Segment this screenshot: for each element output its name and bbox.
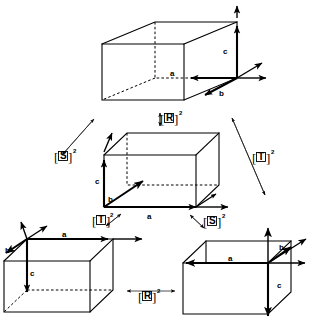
middle-unit-cell: c b a bbox=[95, 133, 228, 221]
bottom-right-cell-label-a: a bbox=[228, 254, 233, 263]
operator-S-lower-letter: S bbox=[209, 215, 216, 226]
operator-S-lower[interactable]: [ S ] 2 bbox=[190, 213, 226, 230]
bottom-right-unit-cell: a b c bbox=[183, 228, 306, 316]
top-cell-hidden-diagonal bbox=[102, 78, 155, 100]
operator-S-left-exponent: 2 bbox=[73, 148, 77, 154]
top-cell-axis-b-negative bbox=[237, 63, 262, 78]
operator-T-right-letter: T bbox=[258, 151, 264, 162]
operator-R-top-close-bracket: ] bbox=[174, 112, 178, 127]
operator-R-top-open-bracket: [ bbox=[160, 112, 164, 127]
middle-cell-label-a: a bbox=[147, 212, 152, 221]
operator-T-lower-letter: T bbox=[98, 214, 104, 225]
symmetry-diagram-svg: a b c c b a a b c bbox=[0, 0, 318, 336]
operator-T-right[interactable]: [ T ] 2 bbox=[232, 118, 275, 195]
bottom-right-cell-front-face bbox=[183, 263, 268, 314]
operator-R-bottom-letter: R bbox=[144, 290, 152, 301]
top-unit-cell: a b c bbox=[102, 6, 266, 100]
operator-R-bottom-open-bracket: [ bbox=[138, 290, 142, 305]
bottom-right-cell-axis-b-extension bbox=[268, 239, 306, 263]
operator-S-lower-close-bracket: ] bbox=[217, 215, 221, 230]
bottom-left-cell-axis-b-negative bbox=[27, 226, 47, 239]
bottom-right-cell-label-b: b bbox=[279, 243, 284, 252]
operator-R-bottom[interactable]: [ R ] 2 bbox=[127, 288, 175, 305]
operator-S-left-arrow-lower bbox=[62, 119, 94, 155]
bottom-right-cell-label-c: c bbox=[277, 281, 282, 290]
operator-R-top[interactable]: [ R ] 2 bbox=[160, 110, 183, 127]
operator-S-left-open-bracket: [ bbox=[54, 150, 58, 165]
bottom-left-cell-hidden-diagonal bbox=[4, 290, 27, 312]
bottom-right-cell-outline bbox=[183, 241, 291, 314]
operator-T-lower[interactable]: [ T ] 2 bbox=[92, 212, 121, 229]
middle-cell-hidden-edges bbox=[127, 133, 219, 185]
top-cell-label-c: c bbox=[223, 47, 228, 56]
operator-S-left-letter: S bbox=[60, 150, 67, 161]
bottom-left-cell-axis-c-negative bbox=[21, 222, 27, 239]
bottom-left-cell-outline bbox=[4, 239, 113, 312]
bottom-left-unit-cell: a b c bbox=[4, 222, 142, 312]
bottom-left-cell-label-b: b bbox=[5, 246, 10, 255]
middle-cell-axis-b-extension bbox=[196, 194, 216, 207]
middle-cell-label-b: b bbox=[108, 195, 113, 204]
top-cell-label-a: a bbox=[170, 69, 175, 78]
operator-R-top-exponent: 2 bbox=[179, 110, 183, 116]
operator-T-lower-open-bracket: [ bbox=[92, 214, 96, 229]
operator-S-lower-exponent: 2 bbox=[222, 213, 226, 219]
operator-R-bottom-close-bracket: ] bbox=[152, 290, 156, 305]
operator-T-right-open-bracket: [ bbox=[252, 151, 256, 166]
middle-cell-label-c: c bbox=[95, 177, 100, 186]
operator-T-right-close-bracket: ] bbox=[266, 151, 270, 166]
operator-T-lower-exponent: 2 bbox=[110, 212, 114, 218]
operator-T-right-exponent: 2 bbox=[271, 149, 275, 155]
figure-root: a b c c b a a b c bbox=[0, 0, 318, 336]
operator-R-top-letter: R bbox=[166, 112, 174, 123]
operator-S-left-close-bracket: ] bbox=[68, 150, 72, 165]
middle-cell-front-face bbox=[104, 155, 196, 207]
bottom-left-cell-label-a: a bbox=[62, 230, 67, 239]
operator-S-left[interactable]: [ S ] 2 bbox=[54, 119, 94, 165]
middle-cell-top-right-edge bbox=[196, 133, 219, 155]
top-cell-label-b: b bbox=[219, 89, 224, 98]
operator-S-lower-arrow-lower bbox=[190, 215, 204, 228]
bottom-left-cell-top-right-edge bbox=[90, 239, 113, 261]
top-cell-top-right-edge bbox=[184, 22, 237, 44]
operator-S-lower-open-bracket: [ bbox=[203, 215, 207, 230]
bottom-left-cell-front-face bbox=[4, 261, 90, 312]
bottom-left-cell-label-c: c bbox=[30, 269, 35, 278]
